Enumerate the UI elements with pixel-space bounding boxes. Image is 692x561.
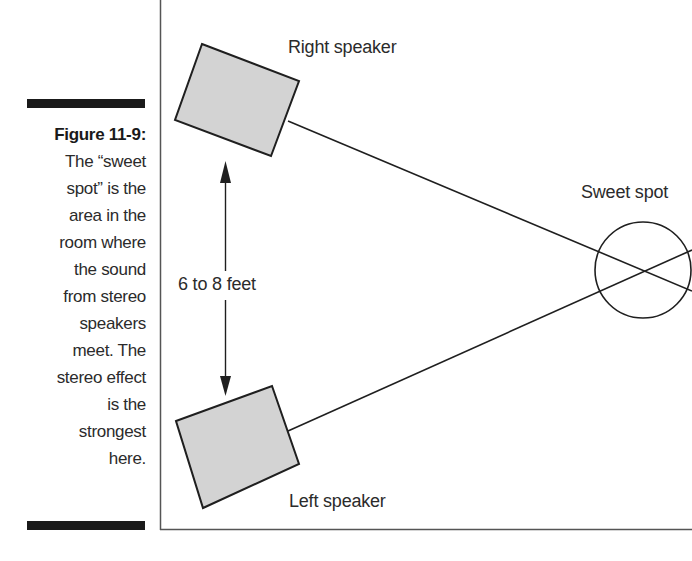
arrow-up-icon [220, 161, 231, 183]
speaker-diagram [0, 0, 692, 561]
left-speaker-box [176, 386, 299, 508]
right-speaker-label: Right speaker [288, 37, 396, 58]
right-speaker-sound-line [288, 121, 692, 291]
left-speaker-sound-line [288, 250, 692, 431]
arrow-down-icon [220, 376, 231, 396]
right-speaker-box [175, 44, 299, 156]
sweet-spot-label: Sweet spot [581, 182, 668, 203]
left-speaker-label: Left speaker [289, 491, 386, 512]
distance-label: 6 to 8 feet [178, 274, 256, 295]
